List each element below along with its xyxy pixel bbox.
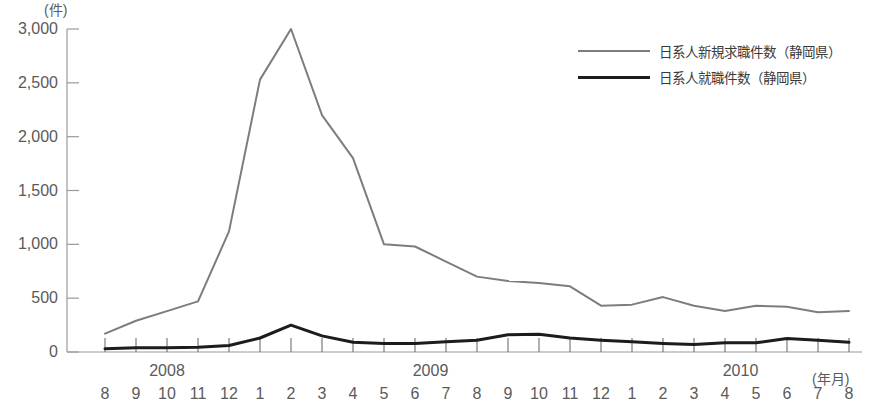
x-axis-year-label: 2008 <box>137 362 197 380</box>
x-axis-month-label: 12 <box>589 385 613 403</box>
legend-label-placements: 日系人就職件数（静岡県） <box>659 67 815 87</box>
x-axis-month-label: 12 <box>217 385 241 403</box>
x-axis-year-label: 2010 <box>711 362 771 380</box>
legend-item-new-job-seekers: 日系人新規求職件数（静岡県） <box>578 38 841 64</box>
x-axis-month-label: 8 <box>93 385 117 403</box>
x-axis-month-label: 11 <box>558 385 582 403</box>
x-axis-month-label: 5 <box>744 385 768 403</box>
x-axis-month-label: 3 <box>682 385 706 403</box>
x-axis-month-label: 8 <box>465 385 489 403</box>
legend-swatch-placements <box>578 76 650 79</box>
x-axis-month-label: 1 <box>620 385 644 403</box>
x-axis-month-label: 3 <box>310 385 334 403</box>
x-axis-month-label: 5 <box>372 385 396 403</box>
chart-container: (件) (年月) 05001,0001,5002,0002,5003,000 日… <box>0 0 872 409</box>
x-axis-month-label: 2 <box>279 385 303 403</box>
x-axis-month-label: 4 <box>341 385 365 403</box>
x-axis-month-label: 10 <box>527 385 551 403</box>
x-axis-month-label: 1 <box>248 385 272 403</box>
chart-legend: 日系人新規求職件数（静岡県） 日系人就職件数（静岡県） <box>578 38 841 90</box>
legend-item-placements: 日系人就職件数（静岡県） <box>578 64 841 90</box>
x-axis-month-label: 2 <box>651 385 675 403</box>
x-axis-month-label: 8 <box>837 385 861 403</box>
x-axis-month-label: 7 <box>806 385 830 403</box>
x-axis-month-label: 10 <box>155 385 179 403</box>
x-axis-month-label: 9 <box>124 385 148 403</box>
x-axis-month-label: 7 <box>434 385 458 403</box>
legend-swatch-new-job-seekers <box>578 50 650 52</box>
x-axis-month-label: 4 <box>713 385 737 403</box>
x-axis-month-label: 11 <box>186 385 210 403</box>
x-axis-year-label: 2009 <box>401 362 461 380</box>
legend-label-new-job-seekers: 日系人新規求職件数（静岡県） <box>659 41 841 61</box>
x-axis-month-label: 6 <box>775 385 799 403</box>
x-axis-month-label: 9 <box>496 385 520 403</box>
x-axis-month-label: 6 <box>403 385 427 403</box>
